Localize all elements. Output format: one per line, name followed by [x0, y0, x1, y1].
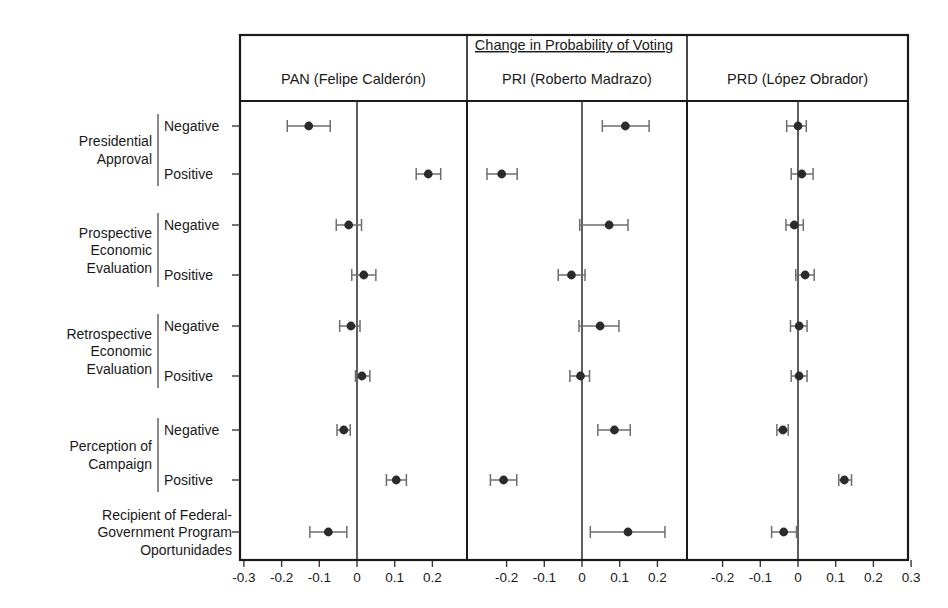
estimate-pan-row-8 [310, 526, 347, 538]
x-tick-label-pri-0: -0.2 [495, 570, 518, 585]
estimate-pri-row-7 [490, 474, 516, 486]
point-estimate [840, 476, 849, 485]
estimate-pan-row-0 [287, 120, 330, 132]
estimate-pri-row-6 [598, 424, 630, 436]
point-estimate [347, 322, 356, 331]
x-tick-label-pri-1: -0.1 [533, 570, 556, 585]
x-tick-label-prd-5: 0.3 [902, 570, 921, 585]
level-label-7: Positive [164, 472, 213, 488]
estimate-pri-row-8 [590, 526, 665, 538]
estimate-pri-row-2 [580, 219, 628, 231]
point-estimate [624, 528, 633, 537]
level-label-0: Negative [164, 118, 219, 134]
group-label-4-line-2: Oportunidades [140, 542, 232, 558]
x-tick-label-prd-1: -0.1 [749, 570, 772, 585]
point-estimate [605, 221, 614, 230]
x-tick-label-prd-2: 0 [794, 570, 802, 585]
level-label-3: Positive [164, 267, 213, 283]
estimate-pri-row-3 [558, 269, 585, 281]
group-label-1-line-1: Economic [91, 242, 152, 258]
point-estimate [621, 122, 630, 131]
point-estimate [795, 322, 804, 331]
level-label-1: Positive [164, 166, 213, 182]
x-tick-label-pri-4: 0.2 [648, 570, 667, 585]
estimate-prd-row-0 [787, 120, 807, 132]
point-estimate [779, 528, 788, 537]
panel-title-prd: PRD (López Obrador) [727, 71, 868, 87]
estimate-pri-row-4 [579, 320, 619, 332]
plot-frame [240, 35, 908, 560]
estimate-prd-row-8 [772, 526, 797, 538]
group-label-0-line-0: Presidential [79, 133, 152, 149]
group-label-0-line-1: Approval [97, 151, 152, 167]
estimate-pan-row-3 [352, 269, 376, 281]
point-estimate [610, 426, 619, 435]
x-tick-label-pan-1: -0.2 [270, 570, 293, 585]
estimate-pan-row-6 [337, 424, 350, 436]
level-label-5: Positive [164, 368, 213, 384]
group-label-4-line-1: Government Program [97, 524, 232, 540]
panel-title-pri: PRI (Roberto Madrazo) [502, 71, 652, 87]
coefficient-plot: Change in Probability of VotingPAN (Feli… [0, 0, 948, 608]
point-estimate [304, 122, 313, 131]
group-label-4-line-0: Recipient of Federal- [102, 507, 232, 523]
point-estimate [392, 476, 401, 485]
point-estimate [779, 426, 788, 435]
point-estimate [359, 271, 368, 280]
point-estimate [797, 170, 806, 179]
estimate-pri-row-1 [487, 168, 517, 180]
point-estimate [424, 170, 433, 179]
plot-canvas: Change in Probability of VotingPAN (Feli… [0, 0, 948, 608]
x-tick-label-pan-2: -0.1 [308, 570, 331, 585]
panel-title-pan: PAN (Felipe Calderón) [281, 71, 426, 87]
estimate-pan-row-7 [386, 474, 406, 486]
estimate-pri-row-0 [602, 120, 649, 132]
x-tick-label-pan-3: 0 [353, 570, 361, 585]
group-label-3-line-0: Perception of [70, 438, 153, 454]
point-estimate [596, 322, 605, 331]
estimate-prd-row-1 [791, 168, 813, 180]
point-estimate [497, 170, 506, 179]
x-tick-label-prd-0: -0.2 [711, 570, 734, 585]
estimate-prd-row-4 [790, 320, 807, 332]
point-estimate [499, 476, 508, 485]
level-label-2: Negative [164, 217, 219, 233]
group-label-2-line-2: Evaluation [87, 361, 152, 377]
chart-title: Change in Probability of Voting [475, 37, 673, 53]
estimate-prd-row-5 [791, 370, 807, 382]
estimate-prd-row-7 [839, 474, 852, 486]
group-label-1-line-0: Prospective [79, 225, 152, 241]
point-estimate [344, 221, 353, 230]
group-label-2-line-1: Economic [91, 343, 152, 359]
point-estimate [576, 372, 585, 381]
level-label-6: Negative [164, 422, 219, 438]
point-estimate [324, 528, 333, 537]
x-tick-label-pan-5: 0.2 [423, 570, 442, 585]
point-estimate [790, 221, 799, 230]
point-estimate [339, 426, 348, 435]
group-label-1-line-2: Evaluation [87, 260, 152, 276]
estimate-prd-row-6 [777, 424, 788, 436]
x-tick-label-prd-4: 0.2 [864, 570, 883, 585]
x-tick-label-prd-3: 0.1 [826, 570, 845, 585]
x-tick-label-pan-4: 0.1 [385, 570, 404, 585]
point-estimate [567, 271, 576, 280]
point-estimate [795, 372, 804, 381]
x-tick-label-pri-3: 0.1 [610, 570, 629, 585]
point-estimate [801, 271, 810, 280]
estimate-pri-row-5 [570, 370, 590, 382]
x-tick-label-pri-2: 0 [578, 570, 586, 585]
estimate-pan-row-1 [416, 168, 441, 180]
x-tick-label-pan-0: -0.3 [232, 570, 255, 585]
estimate-prd-row-2 [786, 219, 803, 231]
group-label-3-line-1: Campaign [88, 456, 152, 472]
point-estimate [794, 122, 803, 131]
point-estimate [358, 372, 367, 381]
level-label-4: Negative [164, 318, 219, 334]
group-label-2-line-0: Retrospective [66, 326, 152, 342]
